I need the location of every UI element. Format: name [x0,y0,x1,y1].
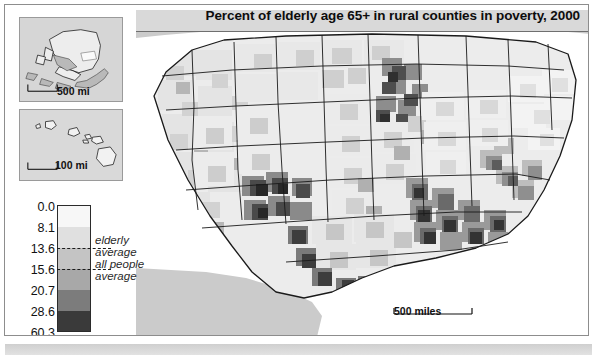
legend-tick-2: 13.6 [19,243,55,256]
alaska-scale-label: 500 mi [57,85,90,97]
main-map-svg [136,10,589,336]
hawaii-scale-label: 100 mi [55,159,88,171]
legend-band-2 [58,248,90,269]
legend: 0.0 8.1 13.6 15.6 20.7 28.6 60.3 elderly… [15,201,135,336]
legend-tick-1: 8.1 [19,222,55,235]
legend-band-1 [58,227,90,248]
legend-band-5 [58,311,90,331]
legend-tick-5: 28.6 [19,306,55,319]
legend-band-4 [58,290,90,311]
legend-tick-0: 0.0 [19,201,55,214]
all-people-average-line1: all people [95,259,144,271]
map-figure: Percent of elderly age 65+ in rural coun… [0,0,597,358]
elderly-average-line2: average [95,247,137,259]
all-people-average-line2: average [95,271,144,283]
bottom-strip [5,344,592,355]
main-scale-label: 500 miles [394,305,441,317]
elderly-average-annotation: elderly average [95,235,137,258]
legend-band-0 [58,206,90,227]
elderly-average-line1: elderly [95,235,137,247]
legend-tick-4: 20.7 [19,285,55,298]
legend-tick-6: 60.3 [19,327,55,336]
legend-tick-3: 15.6 [19,264,55,277]
legend-band-3 [58,269,90,290]
page-title: Percent of elderly age 65+ in rural coun… [206,8,580,23]
all-people-average-annotation: all people average [95,259,144,282]
main-map[interactable] [136,10,589,336]
figure-frame: Percent of elderly age 65+ in rural coun… [4,4,589,336]
